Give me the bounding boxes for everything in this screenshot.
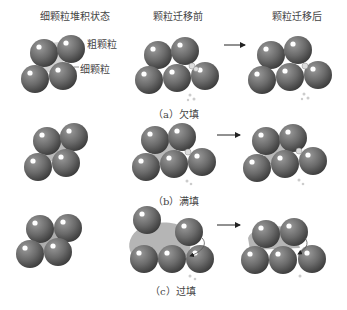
row-a-before — [135, 37, 219, 101]
header-after-migration: 颗粒迁移后 — [272, 8, 322, 23]
row-b-before — [132, 123, 216, 185]
row-b-col1-packing — [24, 123, 88, 181]
row-c-after — [241, 218, 326, 278]
row-b-after — [243, 124, 327, 185]
row-c-before — [129, 206, 214, 280]
header-deposition-state: 细颗粒堆积状态 — [40, 8, 110, 23]
header-before-migration: 颗粒迁移前 — [153, 8, 203, 23]
row-a-col1-packing — [21, 35, 85, 93]
label-fine-particle: 细颗粒 — [80, 61, 110, 76]
caption-c: （c）过填 — [150, 283, 196, 298]
row-c-col1-packing — [16, 214, 82, 268]
row-a-after — [248, 36, 332, 100]
label-coarse-particle: 粗颗粒 — [87, 36, 117, 51]
diagram-canvas — [0, 0, 347, 310]
caption-b: （b）满填 — [153, 193, 199, 208]
caption-a: （a）欠填 — [153, 106, 199, 121]
